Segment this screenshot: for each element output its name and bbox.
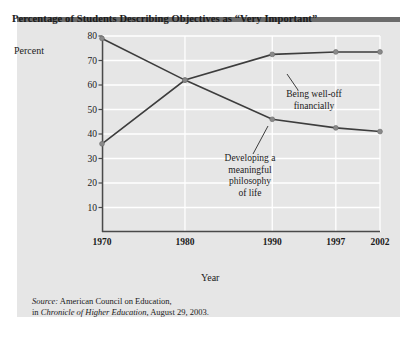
source-line-2-rest: , August 29, 2003. bbox=[146, 307, 208, 317]
svg-text:Developing a: Developing a bbox=[225, 153, 277, 163]
source-line-1: Source: American Council on Education, bbox=[32, 296, 209, 307]
svg-text:meaningful: meaningful bbox=[228, 165, 272, 175]
source-publication: Chronicle of Higher Education bbox=[41, 307, 147, 317]
svg-text:Being well-off: Being well-off bbox=[286, 89, 342, 99]
svg-text:60: 60 bbox=[88, 80, 98, 90]
annotation-well-off: Being well-offfinancially bbox=[286, 89, 342, 111]
svg-text:10: 10 bbox=[88, 203, 98, 213]
svg-text:philosophy: philosophy bbox=[229, 176, 271, 186]
svg-text:30: 30 bbox=[88, 154, 98, 164]
line-chart-svg: 1020304050607080 19701980199019972002 De… bbox=[102, 36, 380, 250]
svg-text:20: 20 bbox=[88, 178, 98, 188]
plot-area: 1020304050607080 19701980199019972002 De… bbox=[102, 36, 380, 250]
svg-text:of life: of life bbox=[239, 188, 262, 198]
x-tick-labels: 19701980199019972002 bbox=[93, 237, 390, 247]
y-axis-title: Percent bbox=[14, 45, 44, 56]
source-line-1-text: American Council on Education, bbox=[58, 296, 172, 306]
source-prefix: Source: bbox=[32, 296, 58, 306]
source-note: Source: American Council on Education, i… bbox=[32, 296, 209, 318]
svg-text:1980: 1980 bbox=[175, 237, 194, 247]
svg-text:50: 50 bbox=[88, 105, 98, 115]
x-axis-title: Year bbox=[201, 272, 219, 283]
svg-text:1970: 1970 bbox=[93, 237, 112, 247]
svg-text:2002: 2002 bbox=[371, 237, 390, 247]
svg-text:1990: 1990 bbox=[263, 237, 282, 247]
svg-text:80: 80 bbox=[88, 31, 98, 41]
svg-text:70: 70 bbox=[88, 56, 98, 66]
svg-text:financially: financially bbox=[294, 101, 335, 111]
svg-text:40: 40 bbox=[88, 129, 98, 139]
chart-title: Percentage of Students Describing Object… bbox=[12, 13, 317, 24]
svg-text:1997: 1997 bbox=[326, 237, 345, 247]
source-line-2: in Chronicle of Higher Education, August… bbox=[32, 307, 209, 318]
chart-figure: Percentage of Students Describing Object… bbox=[0, 0, 417, 338]
source-line-2-lead: in bbox=[32, 307, 41, 317]
